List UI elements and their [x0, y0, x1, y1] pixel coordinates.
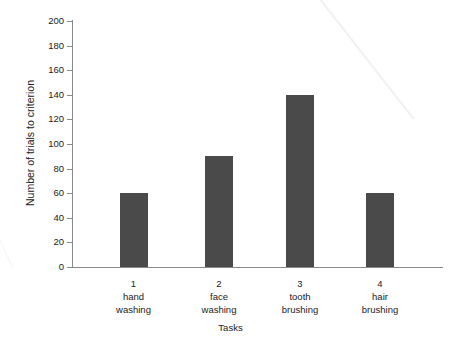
y-axis-tick — [67, 21, 73, 22]
y-axis-tick-label: 80 — [38, 164, 64, 174]
y-axis-tick — [67, 119, 73, 120]
y-axis-tick-label-wrap: 120 — [34, 114, 64, 124]
y-axis-tick — [67, 242, 73, 243]
x-axis-category-name-line1: hand — [89, 290, 179, 303]
x-axis-category-name-line1: face — [174, 290, 264, 303]
x-axis-category-label: 1handwashing — [89, 277, 179, 316]
y-axis-tick-label-wrap: 100 — [34, 139, 64, 149]
bar — [286, 95, 314, 267]
y-axis-tick-label: 200 — [38, 16, 64, 26]
x-axis-category-name-line2: washing — [174, 303, 264, 316]
y-axis-tick-label: 0 — [38, 262, 64, 272]
y-axis-tick-label-wrap: 200 — [34, 16, 64, 26]
x-axis-category-label: 4hairbrushing — [335, 277, 425, 316]
y-axis-tick-label-wrap: 20 — [34, 237, 64, 247]
bar — [120, 193, 148, 267]
y-axis-tick — [67, 46, 73, 47]
x-axis-category-name-line2: washing — [89, 303, 179, 316]
x-axis-title: Tasks — [0, 322, 461, 333]
x-axis-category-name-line1: hair — [335, 290, 425, 303]
x-axis-line — [72, 267, 443, 268]
y-axis-tick — [67, 169, 73, 170]
bar-chart: Number of trials to criterion 0204060801… — [0, 0, 461, 355]
y-axis-tick-label-wrap: 180 — [34, 41, 64, 51]
x-axis-category-index: 1 — [89, 277, 179, 290]
y-axis-tick-label: 140 — [38, 90, 64, 100]
bar — [366, 193, 394, 267]
x-axis-category-index: 3 — [255, 277, 345, 290]
y-axis-tick-label-wrap: 0 — [34, 262, 64, 272]
x-axis-category-name-line1: tooth — [255, 290, 345, 303]
y-axis-tick-label: 40 — [38, 213, 64, 223]
x-axis-category-index: 4 — [335, 277, 425, 290]
bar — [205, 156, 233, 267]
x-axis-category-name-line2: brushing — [255, 303, 345, 316]
y-axis-tick — [67, 70, 73, 71]
y-axis-tick — [67, 193, 73, 194]
x-axis-category-label: 2facewashing — [174, 277, 264, 316]
x-axis-category-index: 2 — [174, 277, 264, 290]
y-axis-tick-label-wrap: 160 — [34, 65, 64, 75]
y-axis-tick-label: 180 — [38, 41, 64, 51]
y-axis-tick — [67, 95, 73, 96]
y-axis-tick-label-wrap: 140 — [34, 90, 64, 100]
y-axis-tick-label-wrap: 80 — [34, 164, 64, 174]
scan-artifact-secondary — [0, 232, 13, 269]
y-axis-tick-label: 120 — [38, 114, 64, 124]
y-axis-tick-label: 100 — [38, 139, 64, 149]
y-axis-tick-label-wrap: 40 — [34, 213, 64, 223]
y-axis-tick — [67, 144, 73, 145]
y-axis-tick-label: 160 — [38, 65, 64, 75]
x-axis-category-name-line2: brushing — [335, 303, 425, 316]
y-axis-tick — [67, 267, 73, 268]
y-axis-tick-label: 20 — [38, 237, 64, 247]
y-axis-tick — [67, 218, 73, 219]
y-axis-tick-label: 60 — [38, 188, 64, 198]
y-axis-tick-label-wrap: 60 — [34, 188, 64, 198]
x-axis-category-label: 3toothbrushing — [255, 277, 345, 316]
